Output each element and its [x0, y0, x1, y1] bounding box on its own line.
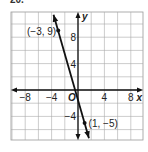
y-tick-label: −4	[65, 111, 77, 122]
x-tick-label: 8	[128, 92, 134, 103]
coordinate-plane: −8−44884−4Oxy (−3, 9)(1, −5)	[0, 0, 148, 152]
x-tick-label: 4	[102, 92, 108, 103]
point-label: (1, −5)	[89, 118, 118, 129]
data-point	[83, 121, 87, 125]
data-point	[56, 29, 60, 33]
point-label: (−3, 9)	[27, 26, 56, 37]
y-axis-label: y	[81, 11, 88, 22]
origin-label: O	[68, 92, 76, 103]
y-tick-label: 8	[70, 32, 76, 43]
x-tick-label: −8	[19, 92, 31, 103]
x-tick-label: −4	[46, 92, 58, 103]
x-axis-label: x	[135, 92, 142, 103]
y-tick-label: 4	[70, 59, 76, 70]
